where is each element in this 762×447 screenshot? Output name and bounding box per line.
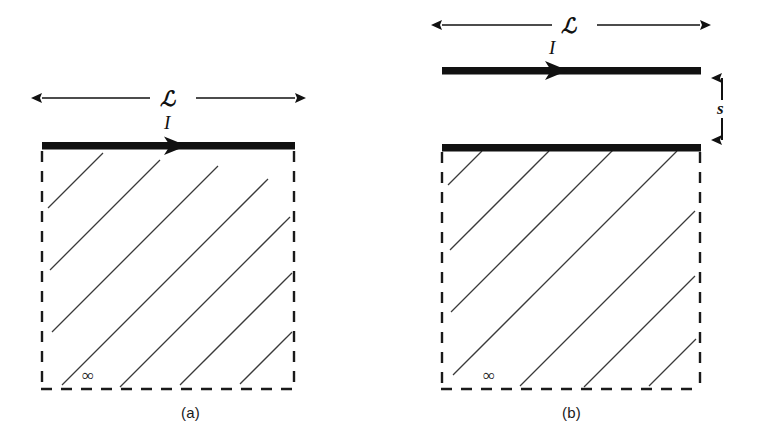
infinity-label-b: ∞ <box>483 366 495 386</box>
panel-a-graphics <box>0 0 381 447</box>
region-boundary-dashed <box>441 152 701 390</box>
length-label-a: ℒ <box>160 86 175 111</box>
panel-b: ℒ I s ∞ (b) <box>381 0 762 447</box>
caption-a: (a) <box>0 404 381 421</box>
infinity-label-a: ∞ <box>82 366 94 386</box>
separation-label-b: s <box>717 99 724 119</box>
hatch-group <box>448 150 696 387</box>
conductor-bar <box>442 67 701 75</box>
current-label-a: I <box>164 112 170 134</box>
hatch-group <box>48 153 292 387</box>
panel-b-graphics <box>381 0 762 447</box>
length-label-b: ℒ <box>561 13 576 38</box>
region-boundary-dashed <box>41 151 295 390</box>
panel-a: ℒ I ∞ (a) <box>0 0 381 447</box>
boundary-bar <box>442 144 701 152</box>
physics-figure: ℒ I ∞ (a) <box>0 0 762 447</box>
caption-b: (b) <box>381 404 762 421</box>
current-label-b: I <box>549 37 555 59</box>
